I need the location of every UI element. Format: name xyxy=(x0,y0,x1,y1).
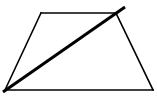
trapezoid-right-edge xyxy=(116,13,153,90)
trapezoid-diagram xyxy=(0,0,157,103)
diagonal-line xyxy=(3,7,125,92)
